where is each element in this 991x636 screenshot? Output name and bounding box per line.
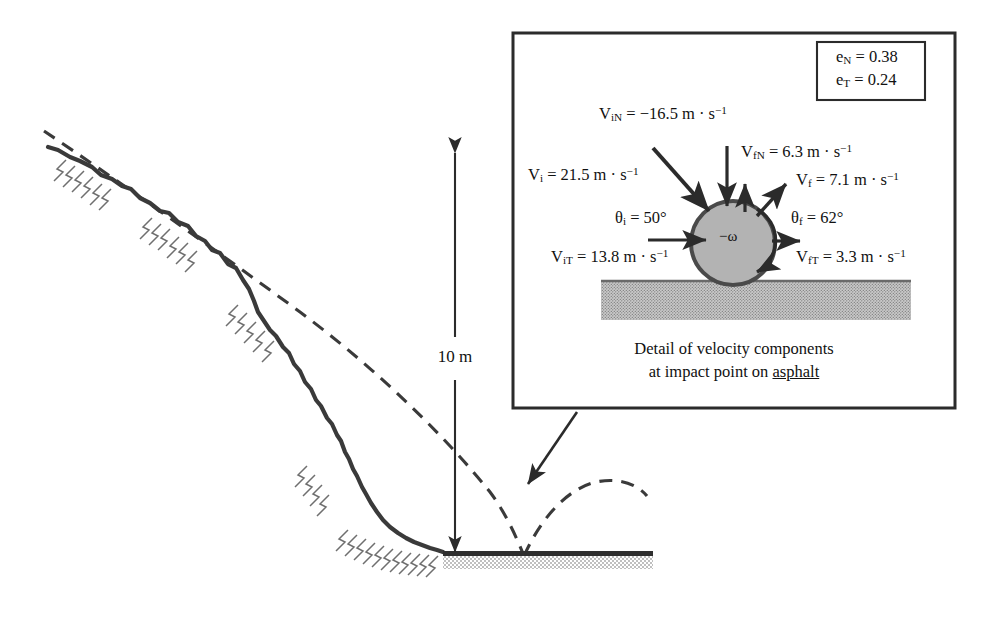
theta-i-label: θi = 50° — [615, 209, 667, 228]
vi-label: Vi = 21.5 m · s−1 — [528, 166, 639, 185]
theta-f-symbol: θ — [791, 208, 799, 227]
spin-label: −ω — [719, 229, 737, 245]
vin-subscript: iN — [611, 111, 622, 123]
theta-i-symbol: θ — [615, 208, 623, 227]
vi-exponent: −1 — [627, 165, 639, 177]
detail-caption-material: asphalt — [772, 362, 819, 381]
figure-canvas: 10 m — [0, 0, 991, 636]
vfn-label: VfN = 6.3 m · s−1 — [741, 143, 852, 162]
vit-value: = 13.8 m · s — [577, 247, 656, 266]
vi-symbol: V — [528, 165, 540, 184]
vfn-exponent: −1 — [840, 142, 852, 154]
e-tangential-value: = 0.24 — [854, 70, 896, 89]
vf-symbol: V — [796, 170, 808, 189]
vi-value: = 21.5 m · s — [547, 165, 626, 184]
theta-f-label: θf = 62° — [791, 209, 843, 228]
vf-value: = 7.1 m · s — [816, 170, 887, 189]
vit-exponent: −1 — [656, 247, 668, 259]
vf-label: Vf = 7.1 m · s−1 — [796, 171, 899, 190]
detail-caption-line1: Detail of velocity components — [634, 340, 833, 357]
vin-value: = −16.5 m · s — [626, 104, 715, 123]
vin-exponent: −1 — [715, 104, 727, 116]
restitution-normal-label: eN = 0.38 — [836, 48, 898, 67]
vfn-value: = 6.3 m · s — [769, 142, 840, 161]
vin-symbol: V — [599, 104, 611, 123]
theta-i-value: = 50° — [630, 208, 667, 227]
vit-symbol: V — [551, 247, 563, 266]
vi-subscript: i — [540, 172, 543, 184]
vft-symbol: V — [796, 247, 808, 266]
vft-exponent: −1 — [894, 247, 906, 259]
vft-label: VfT = 3.3 m · s−1 — [796, 248, 906, 267]
theta-f-subscript: f — [799, 215, 803, 227]
vf-exponent: −1 — [887, 170, 899, 182]
e-normal-subscript: N — [843, 54, 851, 66]
theta-f-value: = 62° — [807, 208, 844, 227]
vft-value: = 3.3 m · s — [823, 247, 894, 266]
vft-subscript: fT — [808, 254, 819, 266]
vit-subscript: iT — [563, 254, 573, 266]
detail-caption-line2-text: at impact point on — [649, 362, 773, 381]
asphalt-block — [601, 282, 911, 320]
vfn-subscript: fN — [753, 149, 765, 161]
vin-label: ViN = −16.5 m · s−1 — [599, 105, 727, 124]
e-normal-value: = 0.38 — [856, 47, 898, 66]
restitution-tangential-label: eT = 0.24 — [836, 71, 897, 90]
e-tangential-subscript: T — [843, 77, 850, 89]
vfn-symbol: V — [741, 142, 753, 161]
vf-subscript: f — [808, 177, 812, 189]
vit-label: ViT = 13.8 m · s−1 — [551, 248, 668, 267]
theta-i-subscript: i — [623, 215, 626, 227]
detail-caption-line2: at impact point on asphalt — [649, 363, 819, 380]
detail-box-layer — [0, 0, 991, 636]
